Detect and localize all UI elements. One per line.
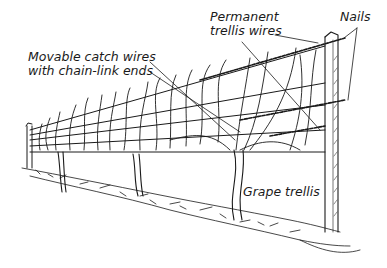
catch-wires: [200, 38, 345, 136]
vine-trunks: [58, 150, 244, 220]
near-post: [325, 32, 338, 232]
label-grape-trellis: Grape trellis: [243, 185, 320, 199]
label-catch-wires: Movable catch wires with chain-link ends: [28, 50, 156, 78]
label-permanent-wires: Permanent trellis wires: [210, 10, 282, 38]
trellis-illustration: [0, 0, 387, 268]
leader-lines: [150, 28, 357, 140]
label-nails: Nails: [340, 10, 370, 24]
ground: [22, 168, 360, 252]
